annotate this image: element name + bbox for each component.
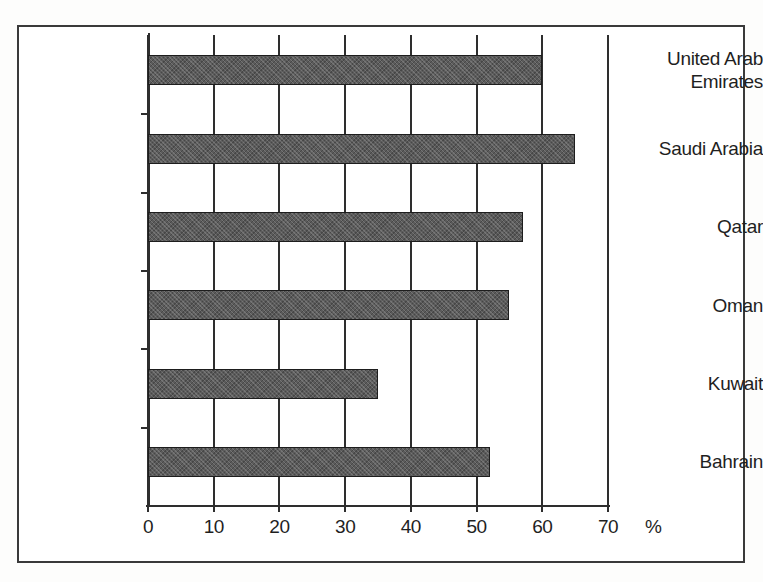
- category-label-line: United Arab: [631, 47, 763, 70]
- bar-united-arab-emirates: [148, 55, 542, 85]
- category-label-line: Saudi Arabia: [631, 137, 763, 160]
- value-tick-label-0: 0: [128, 516, 168, 538]
- value-tick-40: [410, 499, 412, 512]
- bar-qatar: [148, 212, 523, 242]
- category-tick-1: [141, 192, 150, 194]
- gridline-40: [410, 35, 412, 505]
- category-label-kuwait: Kuwait: [631, 372, 763, 395]
- value-tick-label-40: 40: [391, 516, 431, 538]
- value-tick-30: [344, 499, 346, 512]
- category-label-line: Qatar: [631, 215, 763, 238]
- value-tick-label-10: 10: [194, 516, 234, 538]
- value-tick-50: [476, 499, 478, 512]
- category-tick-0: [141, 113, 150, 115]
- category-label-line: Kuwait: [631, 372, 763, 395]
- gridline-20: [278, 35, 280, 505]
- value-tick-label-20: 20: [259, 516, 299, 538]
- value-tick-60: [541, 499, 543, 512]
- bar-saudi-arabia: [148, 134, 575, 164]
- category-tick-3: [141, 348, 150, 350]
- value-tick-label-60: 60: [522, 516, 562, 538]
- gridline-50: [476, 35, 478, 505]
- chart-figure: United ArabEmiratesSaudi ArabiaQatarOman…: [0, 0, 763, 582]
- value-tick-label-70: 70: [588, 516, 628, 538]
- gridline-70: [607, 35, 609, 505]
- category-label-qatar: Qatar: [631, 215, 763, 238]
- category-label-line: Bahrain: [631, 450, 763, 473]
- category-label-line: Emirates: [631, 70, 763, 93]
- category-label-bahrain: Bahrain: [631, 450, 763, 473]
- gridline-10: [213, 35, 215, 505]
- gridline-60: [541, 35, 543, 505]
- category-label-united-arab-emirates: United ArabEmirates: [631, 47, 763, 93]
- category-label-line: Oman: [631, 294, 763, 317]
- bar-oman: [148, 290, 509, 320]
- value-tick-label-30: 30: [325, 516, 365, 538]
- value-tick-70: [607, 499, 609, 512]
- axis-unit-label: %: [645, 516, 662, 538]
- bar-bahrain: [148, 447, 490, 477]
- category-label-oman: Oman: [631, 294, 763, 317]
- category-label-saudi-arabia: Saudi Arabia: [631, 137, 763, 160]
- value-tick-20: [278, 499, 280, 512]
- category-tick-4: [141, 427, 150, 429]
- value-tick-10: [213, 499, 215, 512]
- value-tick-0: [147, 499, 149, 512]
- bar-kuwait: [148, 369, 378, 399]
- category-tick-2: [141, 270, 150, 272]
- value-tick-label-50: 50: [457, 516, 497, 538]
- gridline-30: [344, 35, 346, 505]
